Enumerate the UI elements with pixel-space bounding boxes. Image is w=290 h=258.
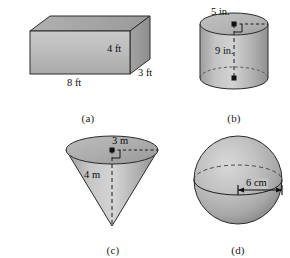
cylinder-bottom-center-dot	[232, 76, 237, 81]
cylinder-drawing	[178, 2, 290, 108]
cylinder-height-label: 9 in.	[215, 46, 234, 57]
sphere-drawing	[186, 128, 290, 240]
figure-sheet: 4 ft 3 ft 8 ft (a)	[0, 0, 290, 258]
cone-radius-label: 3 m	[112, 136, 128, 147]
prism-length-label: 8 ft	[67, 78, 81, 89]
cylinder-top-center-dot	[232, 22, 237, 27]
figure-cylinder: 5 in. 9 in. (b)	[178, 2, 290, 126]
rectangular-prism-drawing	[8, 6, 168, 106]
cone-base-center-dot	[110, 148, 115, 153]
cone-height-label: 4 m	[84, 170, 100, 181]
figure-caption-c: (c)	[48, 244, 178, 256]
cylinder-radius-label: 5 in.	[211, 7, 230, 18]
figure-caption-d: (d)	[186, 244, 290, 256]
figure-cone: 3 m 4 m (c)	[48, 128, 178, 256]
figure-rectangular-prism: 4 ft 3 ft 8 ft (a)	[8, 6, 168, 126]
figure-caption-a: (a)	[8, 112, 168, 124]
prism-height-label: 4 ft	[107, 44, 121, 55]
figure-sphere: 6 cm (d)	[186, 128, 290, 256]
prism-top-face	[30, 16, 150, 31]
sphere-body	[194, 136, 282, 224]
figure-caption-b: (b)	[178, 112, 290, 124]
sphere-radius-label: 6 cm	[245, 178, 268, 189]
prism-depth-label: 3 ft	[138, 68, 152, 79]
